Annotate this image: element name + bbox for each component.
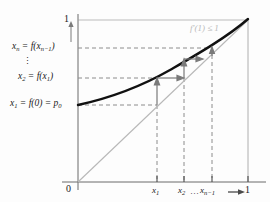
cobweb-horizontal-2-arrowhead	[196, 56, 203, 61]
x-tick-marks-group	[157, 176, 248, 182]
identity-diagonal-line	[78, 20, 248, 182]
vertical-ellipsis: ⋮	[22, 60, 32, 64]
level-label-x1-text: x1 = f(0) = p0	[10, 98, 62, 108]
level-label-x1: x1 = f(0) = p0	[10, 99, 62, 109]
cobweb-vertical-3-arrowhead	[210, 47, 215, 54]
x-tick-label-x2: x2	[178, 186, 185, 195]
y-axis-arrow-icon	[68, 21, 73, 42]
x-tick-label-x1: x1	[152, 186, 159, 195]
y-axis-one-label: 1	[64, 14, 69, 24]
convergence-arrow-icon	[228, 189, 245, 195]
level-label-xn-text: xn = f(xn−1)	[12, 41, 55, 51]
origin-label: 0	[66, 184, 71, 194]
x-tick-label-one: 1	[245, 185, 250, 195]
x-tick-label-xn-minus-1: xn−1	[200, 186, 215, 195]
derivative-annotation: f'(1) ≤ 1	[190, 24, 219, 33]
function-curve	[78, 19, 248, 105]
level-label-x2: x2 = f(x1)	[18, 72, 53, 82]
x-tick-label-ellipsis: …	[190, 187, 200, 196]
cobweb-horizontal-1-arrowhead	[177, 75, 184, 80]
level-label-x2-text: x2 = f(x1)	[18, 71, 53, 81]
cobweb-staircase-group	[154, 47, 214, 105]
cobweb-diagram-figure: 1 0 xn = f(xn−1) ⋮ x2 = f(x1) x1 = f(0) …	[0, 0, 270, 202]
level-label-xn: xn = f(xn−1)	[12, 42, 55, 52]
